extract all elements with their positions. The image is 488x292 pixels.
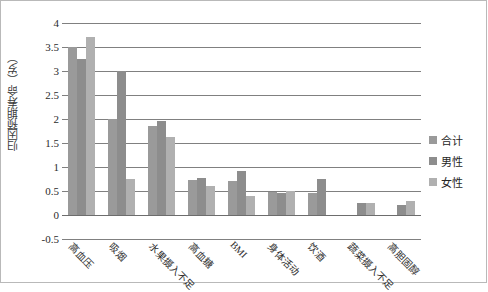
bar xyxy=(188,180,197,215)
y-axis-tick-label: 3 xyxy=(25,65,59,77)
legend-swatch-icon xyxy=(429,157,437,165)
y-axis-tick-label: 1.5 xyxy=(25,137,59,149)
bar xyxy=(148,126,157,215)
y-axis-tick-labels: 43.532.521.510.50-0.5 xyxy=(21,23,59,239)
bar xyxy=(68,47,77,215)
bar xyxy=(126,179,135,215)
x-axis-category-label: BMI xyxy=(228,239,249,260)
x-axis-category-label: 高血糖 xyxy=(185,239,217,271)
legend-label: 女性 xyxy=(441,174,463,190)
chart-container: 归因预期寿命（岁） 43.532.521.510.50-0.5 高血压吸烟水果摄… xyxy=(0,0,487,283)
legend-label: 男性 xyxy=(441,153,463,169)
bar xyxy=(308,193,317,215)
y-axis-tick-label: -0.5 xyxy=(25,233,59,245)
bar xyxy=(108,119,117,215)
bar xyxy=(277,193,286,215)
bar xyxy=(206,186,215,215)
x-axis-category-label: 吸烟 xyxy=(105,239,130,264)
x-axis-category-label: 身体活动 xyxy=(265,239,304,278)
bar xyxy=(246,196,255,215)
bar xyxy=(228,181,237,215)
x-axis-category-label: 饮酒 xyxy=(305,239,330,264)
y-axis-title: 归因预期寿命（岁） xyxy=(3,1,23,201)
bar xyxy=(237,171,246,215)
y-axis-tick-label: 2.5 xyxy=(25,89,59,101)
legend-swatch-icon xyxy=(429,136,437,144)
bar xyxy=(77,59,86,215)
bar xyxy=(317,179,326,215)
bar xyxy=(117,71,126,215)
y-axis-tick-label: 1 xyxy=(25,161,59,173)
legend-item[interactable]: 女性 xyxy=(429,171,485,192)
x-axis-category-labels: 高血压吸烟水果摄入不足高血糖BMI身体活动饮酒蔬菜摄入不足高胆固醇 xyxy=(62,239,421,285)
bar xyxy=(397,205,406,215)
legend-item[interactable]: 合计 xyxy=(429,129,485,150)
legend-label: 合计 xyxy=(441,132,463,148)
y-axis-tick-label: 0.5 xyxy=(25,185,59,197)
x-axis-category-label: 高血压 xyxy=(65,239,97,271)
legend-swatch-icon xyxy=(429,178,437,186)
y-axis-title-text: 归因预期寿命（岁） xyxy=(5,52,21,151)
bar xyxy=(406,201,415,215)
bar xyxy=(86,37,95,215)
chart-legend: 合计男性女性 xyxy=(429,129,485,192)
bar xyxy=(357,203,366,215)
bar xyxy=(268,192,277,215)
bar xyxy=(197,178,206,215)
legend-item[interactable]: 男性 xyxy=(429,150,485,171)
y-axis-tick-label: 2 xyxy=(25,113,59,125)
bar xyxy=(366,203,375,215)
y-axis-tick-label: 0 xyxy=(25,209,59,221)
bar xyxy=(286,191,295,215)
plot-area xyxy=(62,23,421,239)
y-axis-tick-label: 4 xyxy=(25,17,59,29)
bars-layer xyxy=(62,23,421,239)
bar xyxy=(157,121,166,215)
bar xyxy=(166,137,175,215)
x-axis-category-label: 高胆固醇 xyxy=(384,239,423,278)
y-axis-tick-label: 3.5 xyxy=(25,41,59,53)
